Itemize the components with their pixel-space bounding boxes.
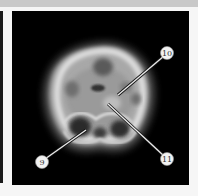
- brain-scan-image: 10 11 9: [12, 11, 189, 185]
- top-divider-strip: [0, 0, 198, 7]
- pet-scan-panel: 10 11 9: [12, 11, 189, 185]
- callout-label-10: 10: [162, 49, 172, 58]
- callout-label-11: 11: [162, 155, 172, 164]
- callout-label-9: 9: [39, 158, 44, 167]
- adjacent-panel-edge: [0, 11, 3, 183]
